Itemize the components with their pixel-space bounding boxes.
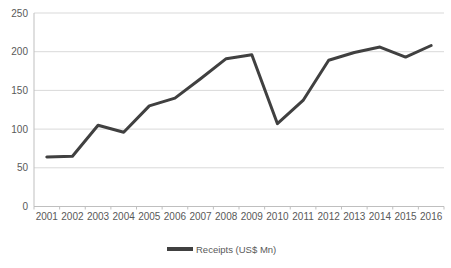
- x-axis-tick-label: 2006: [164, 211, 187, 222]
- x-axis-tick-label: 2002: [61, 211, 84, 222]
- legend: Receipts (US$ Mn): [167, 244, 276, 255]
- x-axis-tick-label: 2007: [189, 211, 212, 222]
- line-chart: 050100150200250 200120022003200420052006…: [0, 0, 451, 268]
- x-axis-tick-label: 2013: [343, 211, 366, 222]
- x-axis-tick-label: 2009: [241, 211, 264, 222]
- chart-canvas: 050100150200250 200120022003200420052006…: [0, 0, 451, 268]
- y-axis-labels: 050100150200250: [11, 8, 28, 213]
- x-axis-tick-label: 2015: [394, 211, 417, 222]
- y-axis-tick-label: 100: [11, 124, 28, 135]
- axes: [34, 13, 444, 210]
- legend-label: Receipts (US$ Mn): [196, 244, 276, 255]
- x-axis-tick-label: 2012: [318, 211, 341, 222]
- x-axis-tick-label: 2008: [215, 211, 238, 222]
- x-axis-tick-label: 2011: [292, 211, 314, 222]
- x-axis-tick-label: 2016: [420, 211, 443, 222]
- receipts-line: [47, 46, 431, 157]
- x-axis-tick-label: 2001: [36, 211, 59, 222]
- x-axis-tick-label: 2004: [113, 211, 136, 222]
- x-axis-tick-label: 2010: [266, 211, 289, 222]
- gridlines: [34, 13, 444, 168]
- x-axis-labels: 2001200220032004200520062007200820092010…: [36, 211, 443, 222]
- y-axis-tick-label: 200: [11, 46, 28, 57]
- x-axis-tick-label: 2005: [138, 211, 161, 222]
- x-axis-tick-label: 2014: [369, 211, 392, 222]
- y-axis-tick-label: 150: [11, 85, 28, 96]
- series-receipts: [47, 46, 431, 157]
- x-axis-tick-label: 2003: [87, 211, 110, 222]
- y-axis-tick-label: 0: [22, 201, 28, 212]
- y-axis-tick-label: 250: [11, 8, 28, 19]
- y-axis-tick-label: 50: [17, 162, 29, 173]
